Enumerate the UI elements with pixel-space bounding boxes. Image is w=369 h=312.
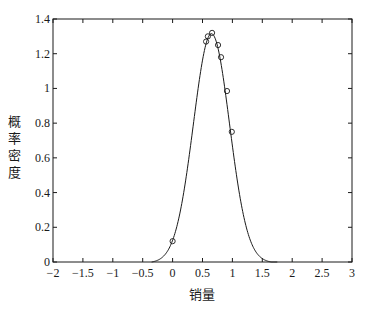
y-tick-label: 0.6 <box>35 151 50 165</box>
y-tick-label: 1.2 <box>35 47 50 61</box>
y-tick-label: 1 <box>44 81 50 95</box>
y-axis-label-char: 概 <box>8 114 21 129</box>
density-curve <box>152 34 278 262</box>
y-axis-label-char: 密 <box>8 148 21 163</box>
x-tick-label: −1 <box>106 266 119 280</box>
x-tick-label: 3 <box>349 266 355 280</box>
y-axis-label-char: 率 <box>8 131 21 146</box>
x-tick-label: 2.5 <box>315 266 330 280</box>
y-axis-ticks: 00.20.40.60.811.21.4 <box>35 12 352 269</box>
x-tick-label: 1.5 <box>255 266 270 280</box>
sample-point <box>209 30 214 35</box>
plot-box <box>53 19 352 262</box>
sample-point <box>229 129 234 134</box>
y-tick-label: 0.4 <box>35 186 50 200</box>
y-axis-label: 概率密度 <box>8 114 21 180</box>
x-axis-label: 销量 <box>189 287 215 302</box>
x-tick-label: −0.5 <box>132 266 154 280</box>
plot-frame <box>53 19 352 262</box>
density-curve-layer <box>152 34 278 262</box>
x-tick-label: −1.5 <box>72 266 94 280</box>
x-axis-ticks: −2−1.5−1−0.500.511.522.53 <box>47 19 355 280</box>
x-tick-label: 0 <box>170 266 176 280</box>
y-tick-label: 0 <box>44 255 50 269</box>
x-tick-label: 2 <box>289 266 295 280</box>
y-tick-label: 1.4 <box>35 12 50 26</box>
x-tick-label: 1 <box>229 266 235 280</box>
x-tick-label: 0.5 <box>195 266 210 280</box>
sample-point <box>218 55 223 60</box>
y-axis-label-char: 度 <box>8 165 21 180</box>
chart: −2−1.5−1−0.500.511.522.53 00.20.40.60.81… <box>0 0 369 312</box>
y-tick-label: 0.2 <box>35 220 50 234</box>
y-tick-label: 0.8 <box>35 116 50 130</box>
